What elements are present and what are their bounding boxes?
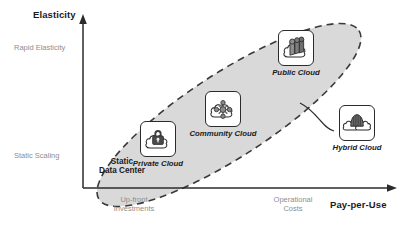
x-axis-high-label-line2: Costs xyxy=(260,205,326,214)
community-cloud-label: Community Cloud xyxy=(178,129,268,138)
y-axis-arrowhead xyxy=(79,14,87,24)
community-cloud-icon-box[interactable] xyxy=(205,91,241,127)
cloud-with-padlock-icon xyxy=(141,122,175,156)
node-public-cloud[interactable]: Public Cloud xyxy=(278,30,341,77)
hybrid-cloud-icon-box[interactable] xyxy=(339,105,375,141)
public-cloud-label: Public Cloud xyxy=(251,68,341,77)
x-axis-high-label: Operational Costs xyxy=(260,196,326,213)
x-axis-arrowhead xyxy=(387,184,397,192)
node-hybrid-cloud[interactable]: Hybrid Cloud xyxy=(339,105,402,152)
node-community-cloud[interactable]: Community Cloud xyxy=(205,91,268,138)
private-cloud-icon-box[interactable] xyxy=(140,121,176,157)
x-axis-title: Pay-per-Use xyxy=(330,200,387,211)
cloud-with-servers-icon xyxy=(279,31,313,65)
two-clouds-with-dome-icon xyxy=(340,106,374,140)
x-axis-low-label: Up-front Investments xyxy=(96,196,172,213)
y-axis-low-label: Static Scaling xyxy=(14,152,59,161)
y-axis-high-label: Rapid Elasticity xyxy=(14,44,65,53)
cloud-with-network-nodes-icon xyxy=(206,92,240,126)
public-cloud-icon-box[interactable] xyxy=(278,30,314,66)
private-cloud-label: Private Cloud xyxy=(113,159,203,168)
x-axis-low-label-line2: Investments xyxy=(96,205,172,214)
hybrid-cloud-label: Hybrid Cloud xyxy=(312,143,402,152)
y-axis-title: Elasticity xyxy=(33,10,76,21)
diagram-canvas: Elasticity Rapid Elasticity Static Scali… xyxy=(0,0,406,230)
